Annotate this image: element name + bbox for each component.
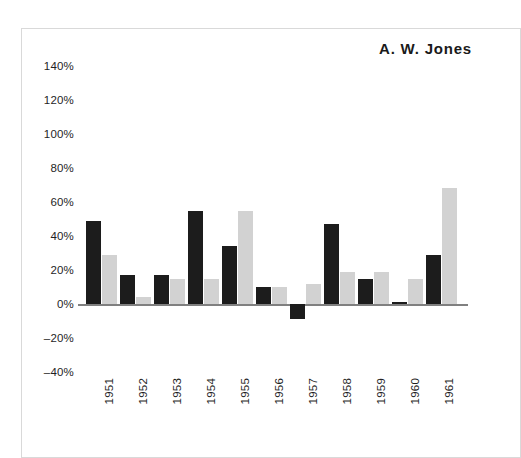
bar-group bbox=[256, 66, 290, 372]
bar-group bbox=[154, 66, 188, 372]
x-tick-label: 1960 bbox=[409, 378, 421, 404]
x-tick: 1952 bbox=[120, 378, 154, 434]
x-tick-label: 1952 bbox=[137, 378, 149, 404]
bar-dark-1956[interactable] bbox=[256, 287, 271, 304]
x-tick-label: 1957 bbox=[307, 378, 319, 404]
bar-dark-1954[interactable] bbox=[188, 211, 203, 305]
bar-group bbox=[222, 66, 256, 372]
bar-dark-1959[interactable] bbox=[358, 279, 373, 305]
x-tick: 1954 bbox=[188, 378, 222, 434]
bar-light-1961[interactable] bbox=[442, 188, 457, 304]
x-tick: 1961 bbox=[426, 378, 460, 434]
bar-light-1958[interactable] bbox=[340, 272, 355, 304]
y-tick-label: 60% bbox=[50, 196, 74, 208]
bar-group bbox=[188, 66, 222, 372]
x-tick: 1959 bbox=[358, 378, 392, 434]
bar-light-1952[interactable] bbox=[136, 297, 151, 304]
y-tick-label: 40% bbox=[50, 230, 74, 242]
bar-dark-1957[interactable] bbox=[290, 304, 305, 319]
y-tick-label: 100% bbox=[44, 128, 74, 140]
bar-group bbox=[290, 66, 324, 372]
bar-light-1955[interactable] bbox=[238, 211, 253, 305]
y-tick-label: 80% bbox=[50, 162, 74, 174]
x-tick: 1955 bbox=[222, 378, 256, 434]
bar-light-1954[interactable] bbox=[204, 279, 219, 305]
bar-dark-1960[interactable] bbox=[392, 302, 407, 304]
bar-dark-1955[interactable] bbox=[222, 246, 237, 304]
bar-dark-1958[interactable] bbox=[324, 224, 339, 304]
y-tick-label: 20% bbox=[50, 264, 74, 276]
bar-light-1957[interactable] bbox=[306, 284, 321, 304]
x-tick-label: 1953 bbox=[171, 378, 183, 404]
y-tick-label: 140% bbox=[44, 60, 74, 72]
x-tick-label: 1954 bbox=[205, 378, 217, 404]
bar-group bbox=[86, 66, 120, 372]
y-tick-label: –40% bbox=[44, 366, 74, 378]
bar-light-1960[interactable] bbox=[408, 279, 423, 305]
bar-light-1951[interactable] bbox=[102, 255, 117, 304]
bar-light-1956[interactable] bbox=[272, 287, 287, 304]
y-axis: 140%120%100%80%60%40%20%0%–20%–40% bbox=[21, 0, 78, 448]
x-tick: 1960 bbox=[392, 378, 426, 434]
x-tick: 1957 bbox=[290, 378, 324, 434]
plot-area bbox=[78, 66, 468, 372]
bar-group bbox=[324, 66, 358, 372]
bar-group bbox=[426, 66, 460, 372]
bar-dark-1952[interactable] bbox=[120, 275, 135, 304]
y-tick-label: –20% bbox=[44, 332, 74, 344]
bar-group bbox=[358, 66, 392, 372]
x-tick: 1958 bbox=[324, 378, 358, 434]
chart-title: A. W. Jones bbox=[379, 40, 472, 57]
bar-light-1959[interactable] bbox=[374, 272, 389, 304]
bar-group bbox=[392, 66, 426, 372]
y-tick-label: 0% bbox=[57, 298, 74, 310]
x-tick: 1951 bbox=[86, 378, 120, 434]
x-tick-label: 1951 bbox=[103, 378, 115, 404]
bar-dark-1961[interactable] bbox=[426, 255, 441, 304]
x-tick-label: 1956 bbox=[273, 378, 285, 404]
bar-group bbox=[120, 66, 154, 372]
x-tick-label: 1958 bbox=[341, 378, 353, 404]
x-tick: 1956 bbox=[256, 378, 290, 434]
bar-light-1953[interactable] bbox=[170, 279, 185, 305]
x-tick-label: 1961 bbox=[443, 378, 455, 404]
bar-dark-1951[interactable] bbox=[86, 221, 101, 304]
x-tick-label: 1959 bbox=[375, 378, 387, 404]
x-tick: 1953 bbox=[154, 378, 188, 434]
x-tick-label: 1955 bbox=[239, 378, 251, 404]
y-tick-label: 120% bbox=[44, 94, 74, 106]
bar-dark-1953[interactable] bbox=[154, 275, 169, 304]
x-axis: 1951195219531954195519561957195819591960… bbox=[78, 378, 468, 438]
